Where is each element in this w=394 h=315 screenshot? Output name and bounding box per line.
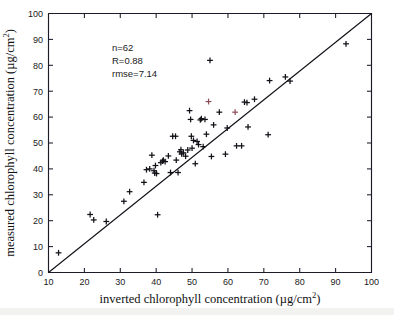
y-tick-label: 90 bbox=[33, 35, 43, 45]
statistics-annotation-group: n=62R=0.88rmse=7.14 bbox=[112, 42, 157, 79]
data-point-marker bbox=[209, 154, 215, 160]
data-point-marker bbox=[149, 152, 155, 158]
x-tick-label: 90 bbox=[331, 277, 341, 287]
data-point-marker bbox=[252, 96, 258, 102]
data-point-marker bbox=[232, 109, 238, 115]
data-point-marker bbox=[153, 163, 159, 169]
y-tick-label: 0 bbox=[38, 268, 43, 278]
data-point-marker bbox=[144, 167, 150, 173]
data-point-marker bbox=[224, 125, 230, 131]
data-point-marker bbox=[187, 108, 193, 114]
bottom-edge-strip bbox=[0, 308, 394, 315]
data-point-marker bbox=[121, 198, 127, 204]
x-tick-label: 60 bbox=[223, 277, 233, 287]
data-points-group bbox=[56, 41, 349, 256]
data-point-marker bbox=[239, 143, 245, 149]
x-tick-label: 80 bbox=[295, 277, 305, 287]
data-point-marker bbox=[216, 109, 222, 115]
data-point-marker bbox=[267, 78, 273, 84]
data-point-marker bbox=[173, 133, 179, 139]
scatter-plot-svg: 1020304050607080901000102030405060708090… bbox=[0, 0, 394, 315]
x-tick-label: 10 bbox=[43, 277, 53, 287]
y-tick-label: 80 bbox=[33, 61, 43, 71]
x-tick-label: 20 bbox=[79, 277, 89, 287]
data-point-marker bbox=[87, 212, 93, 218]
stat-n-text: n=62 bbox=[112, 42, 133, 53]
x-tick-label: 100 bbox=[364, 277, 379, 287]
y-tick-label: 70 bbox=[33, 87, 43, 97]
data-point-marker bbox=[127, 189, 133, 195]
y-tick-label: 30 bbox=[33, 190, 43, 200]
x-tick-label: 30 bbox=[115, 277, 125, 287]
data-point-marker bbox=[165, 153, 171, 159]
data-point-marker bbox=[211, 122, 217, 128]
x-tick-label: 40 bbox=[151, 277, 161, 287]
data-point-marker bbox=[188, 117, 194, 123]
data-point-marker bbox=[282, 74, 288, 80]
y-axis-title: measured chlorophyll concentration (µg/c… bbox=[1, 29, 17, 257]
data-point-marker bbox=[141, 179, 147, 185]
data-point-marker bbox=[91, 217, 97, 223]
data-point-marker bbox=[173, 157, 179, 163]
identity-line-group bbox=[49, 14, 372, 273]
data-point-marker bbox=[103, 219, 109, 225]
stat-rmse-text: rmse=7.14 bbox=[112, 68, 157, 79]
data-point-marker bbox=[204, 131, 210, 137]
y-tick-label: 50 bbox=[33, 138, 43, 148]
data-point-marker bbox=[223, 151, 229, 157]
identity-reference-line bbox=[49, 14, 372, 273]
stat-r-text: R=0.88 bbox=[112, 55, 143, 66]
data-point-marker bbox=[245, 124, 251, 130]
y-tick-label: 100 bbox=[28, 9, 43, 19]
data-point-marker bbox=[343, 41, 349, 47]
data-point-marker bbox=[56, 250, 62, 256]
data-point-marker bbox=[155, 212, 161, 218]
y-tick-label: 20 bbox=[33, 216, 43, 226]
data-point-marker bbox=[207, 57, 213, 63]
y-tick-label: 40 bbox=[33, 164, 43, 174]
x-tick-label: 70 bbox=[259, 277, 269, 287]
x-tick-label: 50 bbox=[187, 277, 197, 287]
y-tick-label: 60 bbox=[33, 112, 43, 122]
data-point-marker bbox=[206, 99, 212, 105]
data-point-marker bbox=[202, 117, 208, 123]
chlorophyll-scatter-figure: 1020304050607080901000102030405060708090… bbox=[0, 0, 394, 315]
x-axis-title: inverted chlorophyll concentration (µg/c… bbox=[100, 290, 321, 306]
data-point-marker bbox=[198, 116, 204, 122]
data-point-marker bbox=[287, 78, 293, 84]
y-tick-label: 10 bbox=[33, 242, 43, 252]
data-point-marker bbox=[168, 170, 174, 176]
data-point-marker bbox=[265, 132, 271, 138]
data-point-marker bbox=[234, 143, 240, 149]
data-point-marker bbox=[192, 161, 198, 167]
